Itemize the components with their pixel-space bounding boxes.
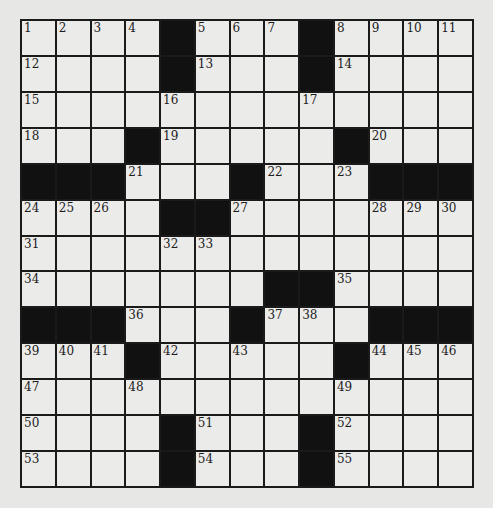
grid-cell[interactable] — [370, 237, 403, 271]
grid-cell[interactable]: 19 — [161, 129, 194, 163]
grid-cell[interactable] — [126, 272, 159, 306]
grid-cell[interactable] — [370, 93, 403, 127]
grid-cell[interactable]: 53 — [22, 452, 55, 486]
grid-cell[interactable]: 31 — [22, 237, 55, 271]
grid-cell[interactable] — [335, 237, 368, 271]
grid-cell[interactable] — [265, 344, 298, 378]
grid-cell[interactable]: 33 — [196, 237, 229, 271]
grid-cell[interactable] — [265, 57, 298, 91]
grid-cell[interactable] — [231, 237, 264, 271]
grid-cell[interactable] — [370, 380, 403, 414]
grid-cell[interactable] — [404, 129, 437, 163]
grid-cell[interactable] — [57, 452, 90, 486]
grid-cell[interactable]: 27 — [231, 201, 264, 235]
grid-cell[interactable]: 34 — [22, 272, 55, 306]
grid-cell[interactable] — [92, 452, 125, 486]
grid-cell[interactable]: 42 — [161, 344, 194, 378]
grid-cell[interactable]: 48 — [126, 380, 159, 414]
grid-cell[interactable] — [300, 201, 333, 235]
grid-cell[interactable] — [404, 452, 437, 486]
grid-cell[interactable] — [126, 201, 159, 235]
grid-cell[interactable] — [265, 93, 298, 127]
grid-cell[interactable]: 22 — [265, 165, 298, 199]
grid-cell[interactable] — [439, 57, 472, 91]
grid-cell[interactable]: 40 — [57, 344, 90, 378]
grid-cell[interactable] — [161, 308, 194, 342]
grid-cell[interactable]: 47 — [22, 380, 55, 414]
grid-cell[interactable] — [92, 416, 125, 450]
grid-cell[interactable] — [196, 93, 229, 127]
grid-cell[interactable] — [92, 380, 125, 414]
grid-cell[interactable]: 6 — [231, 21, 264, 55]
grid-cell[interactable]: 43 — [231, 344, 264, 378]
grid-cell[interactable]: 23 — [335, 165, 368, 199]
grid-cell[interactable] — [265, 380, 298, 414]
grid-cell[interactable] — [265, 416, 298, 450]
grid-cell[interactable] — [92, 237, 125, 271]
grid-cell[interactable]: 35 — [335, 272, 368, 306]
grid-cell[interactable]: 51 — [196, 416, 229, 450]
grid-cell[interactable]: 3 — [92, 21, 125, 55]
grid-cell[interactable] — [439, 129, 472, 163]
grid-cell[interactable] — [196, 272, 229, 306]
grid-cell[interactable] — [300, 380, 333, 414]
grid-cell[interactable] — [404, 272, 437, 306]
grid-cell[interactable] — [57, 272, 90, 306]
grid-cell[interactable] — [300, 237, 333, 271]
grid-cell[interactable]: 10 — [404, 21, 437, 55]
grid-cell[interactable] — [57, 129, 90, 163]
grid-cell[interactable] — [92, 93, 125, 127]
grid-cell[interactable] — [231, 452, 264, 486]
grid-cell[interactable] — [92, 57, 125, 91]
grid-cell[interactable]: 50 — [22, 416, 55, 450]
grid-cell[interactable] — [439, 93, 472, 127]
grid-cell[interactable] — [370, 416, 403, 450]
grid-cell[interactable] — [404, 57, 437, 91]
grid-cell[interactable]: 30 — [439, 201, 472, 235]
grid-cell[interactable]: 24 — [22, 201, 55, 235]
grid-cell[interactable]: 1 — [22, 21, 55, 55]
grid-cell[interactable]: 26 — [92, 201, 125, 235]
grid-cell[interactable] — [439, 380, 472, 414]
grid-cell[interactable] — [300, 165, 333, 199]
grid-cell[interactable] — [231, 57, 264, 91]
grid-cell[interactable] — [126, 57, 159, 91]
grid-cell[interactable]: 18 — [22, 129, 55, 163]
grid-cell[interactable] — [126, 416, 159, 450]
grid-cell[interactable]: 14 — [335, 57, 368, 91]
grid-cell[interactable]: 17 — [300, 93, 333, 127]
grid-cell[interactable] — [126, 237, 159, 271]
grid-cell[interactable] — [231, 93, 264, 127]
grid-cell[interactable] — [196, 165, 229, 199]
grid-cell[interactable]: 41 — [92, 344, 125, 378]
grid-cell[interactable] — [196, 129, 229, 163]
grid-cell[interactable]: 37 — [265, 308, 298, 342]
grid-cell[interactable] — [439, 452, 472, 486]
grid-cell[interactable] — [57, 380, 90, 414]
grid-cell[interactable]: 32 — [161, 237, 194, 271]
grid-cell[interactable] — [196, 308, 229, 342]
grid-cell[interactable] — [370, 57, 403, 91]
grid-cell[interactable] — [57, 93, 90, 127]
grid-cell[interactable]: 12 — [22, 57, 55, 91]
grid-cell[interactable] — [231, 380, 264, 414]
grid-cell[interactable] — [196, 380, 229, 414]
grid-cell[interactable]: 52 — [335, 416, 368, 450]
grid-cell[interactable]: 21 — [126, 165, 159, 199]
grid-cell[interactable]: 28 — [370, 201, 403, 235]
grid-cell[interactable]: 8 — [335, 21, 368, 55]
grid-cell[interactable]: 49 — [335, 380, 368, 414]
grid-cell[interactable] — [265, 237, 298, 271]
grid-cell[interactable]: 20 — [370, 129, 403, 163]
grid-cell[interactable] — [196, 344, 229, 378]
grid-cell[interactable] — [92, 129, 125, 163]
grid-cell[interactable] — [335, 201, 368, 235]
grid-cell[interactable] — [300, 344, 333, 378]
grid-cell[interactable] — [439, 416, 472, 450]
grid-cell[interactable] — [404, 416, 437, 450]
grid-cell[interactable] — [265, 201, 298, 235]
grid-cell[interactable]: 54 — [196, 452, 229, 486]
grid-cell[interactable]: 38 — [300, 308, 333, 342]
grid-cell[interactable] — [439, 272, 472, 306]
grid-cell[interactable] — [335, 308, 368, 342]
